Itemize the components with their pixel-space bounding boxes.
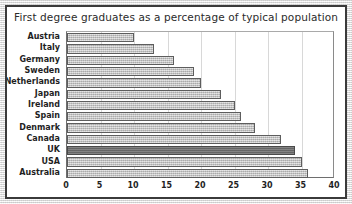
bar-row: [67, 43, 333, 54]
bar-row: [67, 89, 333, 100]
y-axis-label-japan: Japan: [35, 89, 60, 98]
bar-ireland[interactable]: [67, 101, 235, 110]
x-axis-tick-10: 10: [127, 181, 138, 190]
bar-italy[interactable]: [67, 44, 154, 53]
y-axis-label-germany: Germany: [19, 55, 60, 64]
bar-row: [67, 55, 333, 66]
x-axis-tick-40: 40: [328, 181, 339, 190]
x-axis-tick-25: 25: [228, 181, 239, 190]
x-axis-tick-20: 20: [194, 181, 205, 190]
bar-row: [67, 111, 333, 122]
bar-canada[interactable]: [67, 135, 281, 144]
bar-row: [67, 77, 333, 88]
x-axis-tick-5: 5: [97, 181, 103, 190]
bar-row: [67, 122, 333, 133]
bar-spain[interactable]: [67, 112, 241, 121]
bar-row: [67, 168, 333, 179]
x-axis-tick-0: 0: [63, 181, 69, 190]
y-axis-label-denmark: Denmark: [19, 123, 60, 132]
y-axis-label-spain: Spain: [35, 111, 60, 120]
y-axis-label-australia: Australia: [19, 168, 60, 177]
bar-japan[interactable]: [67, 90, 221, 99]
x-axis-labels: 0510152025303540: [66, 181, 334, 195]
x-axis-tick-15: 15: [161, 181, 172, 190]
bar-row: [67, 66, 333, 77]
bar-netherlands[interactable]: [67, 78, 201, 87]
chart-card: First degree graduates as a percentage o…: [5, 5, 347, 199]
page-background: First degree graduates as a percentage o…: [0, 0, 352, 204]
x-axis-tick-30: 30: [261, 181, 272, 190]
y-axis-label-uk: UK: [47, 145, 60, 154]
bar-denmark[interactable]: [67, 123, 255, 132]
x-axis-tick-35: 35: [295, 181, 306, 190]
bar-row: [67, 32, 333, 43]
bar-row: [67, 134, 333, 145]
bar-usa[interactable]: [67, 157, 302, 166]
y-axis-label-netherlands: Netherlands: [5, 77, 60, 86]
y-axis-label-italy: Italy: [40, 43, 60, 52]
bar-sweden[interactable]: [67, 67, 194, 76]
bar-germany[interactable]: [67, 56, 174, 65]
y-axis-label-canada: Canada: [27, 134, 61, 143]
bar-australia[interactable]: [67, 169, 308, 178]
y-axis-label-sweden: Sweden: [25, 66, 60, 75]
bar-row: [67, 100, 333, 111]
chart-title: First degree graduates as a percentage o…: [7, 11, 345, 23]
bar-row: [67, 156, 333, 167]
y-axis-label-austria: Austria: [27, 32, 60, 41]
bar-austria[interactable]: [67, 33, 134, 42]
y-axis-labels: AustriaItalyGermanySwedenNetherlandsJapa…: [7, 31, 63, 178]
bar-uk[interactable]: [67, 146, 295, 155]
plot-area: [66, 31, 334, 178]
bar-row: [67, 145, 333, 156]
y-axis-label-usa: USA: [42, 157, 60, 166]
y-axis-label-ireland: Ireland: [28, 100, 60, 109]
bar-series: [67, 32, 333, 177]
